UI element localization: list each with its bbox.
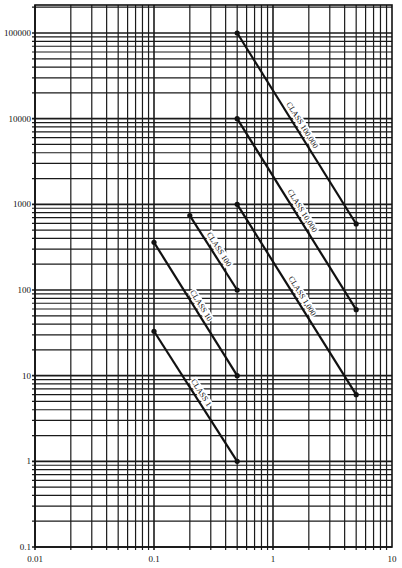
x-tick-label: 0.01	[27, 554, 43, 564]
class-line	[154, 331, 237, 461]
endpoint-dot	[235, 373, 240, 378]
endpoint-dot	[235, 30, 240, 35]
endpoint-dot	[235, 459, 240, 464]
endpoint-dot	[151, 329, 156, 334]
grid	[32, 5, 392, 550]
endpoint-dot	[354, 221, 359, 226]
endpoint-dot	[187, 213, 192, 218]
y-tick-label: 10	[22, 371, 32, 381]
series-class-1: CLASS 1	[151, 329, 239, 464]
class-line	[190, 216, 237, 290]
log-log-chart: 0.010.11100.1110100100010000100000 CLASS…	[0, 0, 402, 568]
endpoint-dot	[151, 240, 156, 245]
y-tick-label: 1	[27, 456, 32, 466]
y-tick-label: 100	[18, 285, 32, 295]
endpoint-dot	[354, 392, 359, 397]
class-label: CLASS 1,000	[286, 275, 317, 318]
x-tick-label: 10	[388, 554, 398, 564]
endpoint-dot	[354, 307, 359, 312]
series-class-100: CLASS 100	[187, 213, 240, 293]
y-tick-label: 1000	[13, 199, 32, 209]
x-tick-label: 1	[271, 554, 276, 564]
y-tick-label: 10000	[9, 114, 32, 124]
y-tick-label: 0.1	[20, 542, 31, 552]
y-tick-label: 100000	[4, 28, 32, 38]
series-class-1-000: CLASS 1,000	[235, 202, 359, 398]
endpoint-dot	[235, 202, 240, 207]
class-label: CLASS 100,000	[284, 100, 320, 150]
x-tick-label: 0.1	[148, 554, 159, 564]
class-label: CLASS 10,000	[285, 188, 319, 234]
endpoint-dot	[235, 116, 240, 121]
endpoint-dot	[235, 287, 240, 292]
